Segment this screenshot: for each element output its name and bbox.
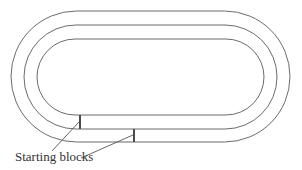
track-drawing [0,0,302,170]
track-lane-divider [24,25,277,129]
track-inner-edge [37,39,264,115]
running-track-diagram: Starting blocks [0,0,302,170]
leader-line-lane-1 [52,122,79,151]
starting-blocks-label: Starting blocks [15,150,93,164]
